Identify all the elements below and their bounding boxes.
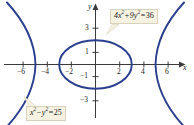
y-tick-label--1: −1 [80, 72, 88, 80]
x-tick-label-2: 2 [117, 68, 121, 76]
x-tick-label-6: 6 [165, 68, 169, 76]
x-tick-label--6: −6 [17, 68, 25, 76]
hyperbola-equation-callout: x2−y2=25 [26, 106, 66, 121]
x-tick-label-4: 4 [141, 68, 145, 76]
y-tick-label-1: 1 [85, 48, 89, 56]
x-axis-label: x [183, 64, 187, 72]
hyperbola-eq-rhs: 25 [54, 108, 62, 117]
x-axis [4, 62, 186, 68]
ellipse-eq-rhs: 36 [146, 11, 154, 20]
x-tick-label--2: −2 [65, 68, 73, 76]
x-tick-label--4: −4 [41, 68, 49, 76]
y-axis-label: y [88, 3, 92, 11]
ellipse-callout-tail [107, 25, 120, 35]
ellipse-equation-callout: 4x2+9y2=36 [110, 9, 158, 24]
y-axis-arrow [93, 4, 99, 11]
y-tick-label-3: 3 [85, 24, 89, 32]
y-tick-label--3: −3 [80, 96, 88, 104]
ellipse-hyperbola-figure: y x −6 −4 −2 2 4 6 3 1 −1 −3 4x2+9y2=36 … [0, 0, 194, 125]
